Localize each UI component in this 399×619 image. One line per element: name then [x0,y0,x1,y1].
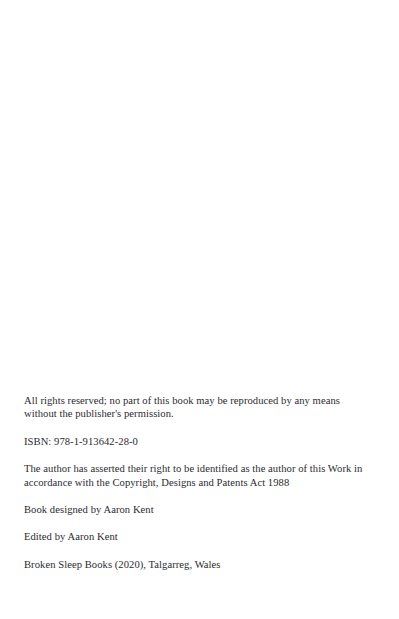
imprint-text-block: All rights reserved; no part of this boo… [24,394,380,571]
page-bottom-whitespace [0,590,399,619]
author-assertion-notice: The author has asserted their right to b… [24,462,380,489]
publisher-imprint-line: Broken Sleep Books (2020), Talgarreg, Wa… [24,558,374,571]
rights-reserved-notice: All rights reserved; no part of this boo… [24,394,374,421]
book-designer-credit: Book designed by Aaron Kent [24,503,374,516]
page-top-whitespace [0,0,399,390]
isbn-line: ISBN: 978-1-913642-28-0 [24,435,374,448]
copyright-page: All rights reserved; no part of this boo… [0,0,399,619]
editor-credit: Edited by Aaron Kent [24,530,374,543]
